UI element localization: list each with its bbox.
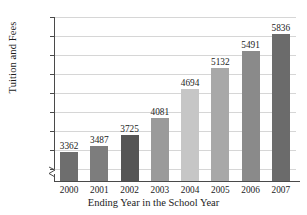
bar [242,51,260,181]
x-axis-label: 2000 [60,185,79,195]
bars-layer: 3362200034872001372520024081200346942004… [54,17,300,181]
bar-value-label: 5836 [272,23,291,33]
bar-group: 34872001 [90,17,108,181]
bar-group: 54912006 [242,17,260,181]
bar-value-label: 5132 [211,57,230,67]
bar [90,146,108,181]
x-axis-label: 2004 [181,185,200,195]
bar-value-label: 5491 [241,40,260,50]
x-axis-title: Ending Year in the School Year [0,197,307,208]
x-axis-label: 2001 [90,185,109,195]
bar [121,135,139,181]
bar-group: 46942004 [181,17,199,181]
x-axis-line [54,181,300,182]
bar-group: 40812003 [151,17,169,181]
bar-value-label: 3362 [60,141,79,151]
bar-value-label: 3487 [90,135,109,145]
x-axis-label: 2003 [151,185,170,195]
bar [211,68,229,181]
bar-chart: Tuition and Fees $6200$5800$5400$5000$46… [0,0,307,215]
bar-group: 58362007 [272,17,290,181]
x-axis-label: 2006 [241,185,260,195]
y-axis-title: Tuition and Fees [7,0,18,123]
x-axis-label: 2007 [272,185,291,195]
bar-value-label: 4081 [151,107,170,117]
bar [151,118,169,181]
bar-value-label: 4694 [181,78,200,88]
x-axis-label: 2005 [211,185,230,195]
bar [60,152,78,181]
bar-group: 33622000 [60,17,78,181]
bar-group: 51322005 [211,17,229,181]
bar [272,34,290,181]
bar [181,89,199,181]
bar-group: 37252002 [121,17,139,181]
bar-value-label: 3725 [120,124,139,134]
x-axis-label: 2002 [120,185,139,195]
